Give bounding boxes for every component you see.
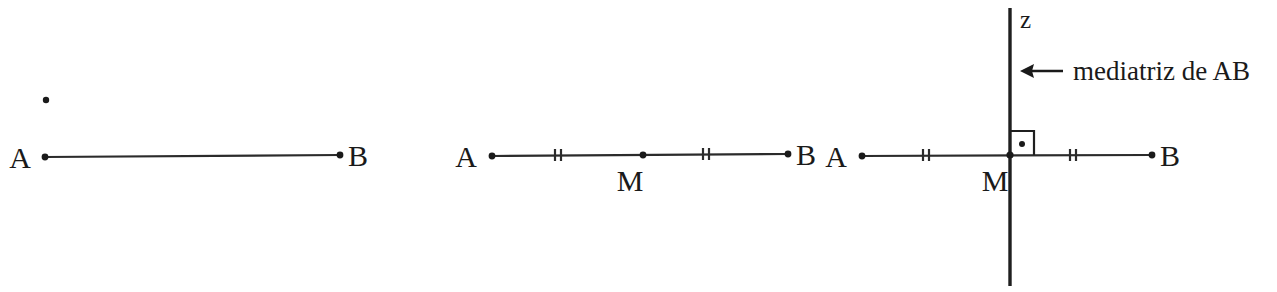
midpoint-m-dot [640, 152, 647, 159]
point-a-label: A [9, 141, 31, 174]
point-b-label: B [348, 139, 368, 172]
stray-point-dot [43, 97, 49, 103]
midpoint-m-label: M [982, 164, 1009, 197]
point-b-label: B [796, 138, 816, 171]
point-a-dot [859, 153, 866, 160]
midpoint-m-dot [1006, 151, 1013, 158]
panel-midpoint: A B M [455, 138, 816, 197]
point-a-label: A [455, 140, 477, 173]
segment-ab-line [45, 155, 340, 157]
point-a-dot [489, 153, 496, 160]
point-b-dot [337, 152, 344, 159]
left-arrow-icon [1020, 64, 1063, 78]
point-a-dot [42, 154, 49, 161]
geometry-figure: A B A B M [0, 0, 1277, 292]
panel-segment: A B [9, 97, 368, 174]
panel-perpendicular-bisector: z A B M mediatriz de AB [825, 6, 1250, 286]
midpoint-m-label: M [617, 164, 644, 197]
mediatriz-annotation-label: mediatriz de AB [1073, 56, 1250, 86]
line-z-label: z [1020, 6, 1031, 33]
figure-canvas: A B A B M [0, 0, 1277, 292]
point-a-label: A [825, 140, 847, 173]
right-angle-marker [1010, 131, 1034, 155]
right-angle-dot [1019, 141, 1025, 147]
point-b-label: B [1160, 139, 1180, 172]
point-b-dot [1149, 152, 1156, 159]
point-b-dot [785, 151, 792, 158]
